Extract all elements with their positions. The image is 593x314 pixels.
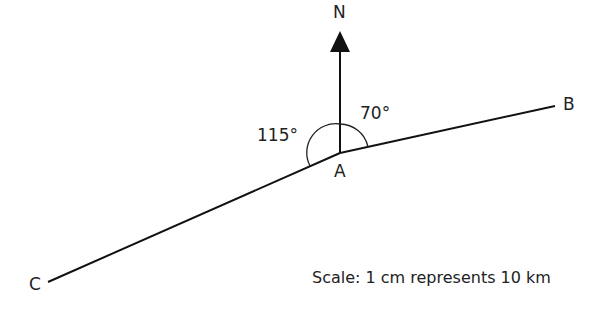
- point-A-label: A: [334, 163, 346, 180]
- point-C-label: C: [29, 276, 41, 293]
- bearing-diagram: N A B C 70° 115° Scale: 1 cm represents …: [0, 0, 593, 314]
- angle-70-label: 70°: [360, 105, 390, 122]
- diagram-lines: [0, 0, 593, 314]
- point-B-label: B: [563, 96, 575, 113]
- north-arrow-icon: [330, 31, 350, 52]
- north-label: N: [333, 4, 346, 21]
- angle-115-label: 115°: [257, 127, 298, 144]
- scale-text: Scale: 1 cm represents 10 km: [312, 270, 551, 286]
- angle-arc-70: [340, 124, 368, 147]
- line-AC: [48, 153, 340, 282]
